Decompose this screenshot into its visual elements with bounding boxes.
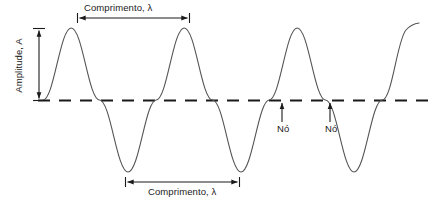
wavelength-bottom-label: Comprimento, λ bbox=[148, 186, 216, 197]
wavelength-top-label: Comprimento, λ bbox=[84, 2, 152, 13]
amplitude-label: Amplitude, A bbox=[13, 31, 24, 101]
node-label-2: Nó bbox=[325, 123, 337, 134]
sine-wave-curve bbox=[43, 23, 419, 172]
node-label-1: Nó bbox=[277, 123, 289, 134]
wave-diagram: Comprimento, λ Comprimento, λ Amplitude,… bbox=[0, 0, 437, 203]
wave-diagram-canvas bbox=[0, 0, 437, 203]
